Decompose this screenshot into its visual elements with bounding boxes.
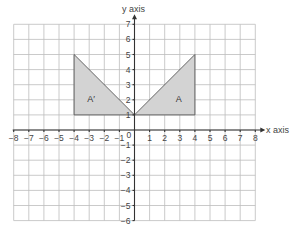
- x-axis-arrow-icon: [260, 128, 265, 133]
- y-tick-label: −5: [121, 201, 131, 211]
- y-tick-label: 7: [126, 19, 131, 29]
- x-tick-label: 5: [208, 133, 213, 143]
- x-tick-label: −5: [54, 133, 64, 143]
- axes: [13, 14, 266, 220]
- x-tick-label: 6: [223, 133, 228, 143]
- x-tick-label: −3: [84, 133, 94, 143]
- x-tick-label: 4: [193, 133, 198, 143]
- y-tick-label: 4: [126, 65, 131, 75]
- origin-label: 0: [127, 130, 132, 140]
- x-axis-title: x axis: [266, 125, 290, 135]
- y-tick-label: 2: [126, 95, 131, 105]
- y-tick-label: −6: [121, 216, 131, 226]
- y-tick-label: −4: [121, 185, 131, 195]
- y-tick-label: −2: [121, 155, 131, 165]
- x-tick-label: 1: [147, 133, 152, 143]
- y-tick-label: 1: [126, 110, 131, 120]
- x-tick-label: 3: [177, 133, 182, 143]
- x-tick-label: 2: [162, 133, 167, 143]
- shape-label-A-prime: A′: [87, 94, 95, 104]
- x-tick-label: −6: [39, 133, 49, 143]
- y-tick-label: 5: [126, 50, 131, 60]
- y-tick-label: 3: [126, 80, 131, 90]
- x-tick-label: 7: [238, 133, 243, 143]
- x-tick-label: −7: [24, 133, 34, 143]
- coordinate-grid: AA′ −8−7−6−5−4−3−2−1123456787654321−1−2−…: [0, 0, 292, 238]
- y-axis-title: y axis: [122, 4, 146, 14]
- x-tick-label: −4: [69, 133, 79, 143]
- y-axis-arrow-icon: [132, 14, 137, 19]
- y-tick-label: 6: [126, 34, 131, 44]
- x-tick-label: −2: [99, 133, 109, 143]
- shape-label-A: A: [176, 94, 182, 104]
- x-tick-label: −8: [9, 133, 19, 143]
- y-tick-label: −1: [121, 140, 131, 150]
- y-tick-label: −3: [121, 170, 131, 180]
- tick-labels: −8−7−6−5−4−3−2−1123456787654321−1−2−3−4−…: [9, 19, 258, 225]
- x-tick-label: 8: [253, 133, 258, 143]
